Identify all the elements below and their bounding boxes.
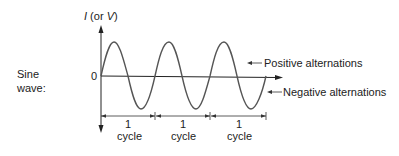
svg-text:1: 1 xyxy=(180,118,186,130)
pointer-arrow-icon xyxy=(247,61,252,65)
svg-text:1: 1 xyxy=(236,118,242,130)
sine-label: Sine xyxy=(17,68,39,80)
y-axis xyxy=(99,25,104,133)
svg-text:cycle: cycle xyxy=(117,130,142,142)
arrow-up-icon xyxy=(99,25,104,33)
cycle-dimension-3: 1 cycle xyxy=(211,112,266,142)
svg-text:1: 1 xyxy=(125,118,131,130)
sine-wave-diagram: Sine wave: I (or V) 0 Positive alternati… xyxy=(0,0,399,156)
cycle-dimension-1: 1 cycle xyxy=(101,112,155,142)
pointer-arrow-icon xyxy=(267,90,272,94)
zero-label: 0 xyxy=(91,70,97,82)
cycle-dimension-2: 1 cycle xyxy=(156,112,210,142)
svg-text:Negative alternations: Negative alternations xyxy=(283,86,387,98)
positive-alternations-callout: Positive alternations xyxy=(247,57,363,69)
svg-text:cycle: cycle xyxy=(227,130,252,142)
wave-label: wave: xyxy=(16,82,46,94)
negative-alternations-callout: Negative alternations xyxy=(267,86,387,98)
svg-text:Positive alternations: Positive alternations xyxy=(264,57,363,69)
arrow-down-icon xyxy=(99,125,104,133)
sine-wave-curve xyxy=(101,42,266,109)
svg-text:cycle: cycle xyxy=(171,130,196,142)
arrow-right-icon xyxy=(275,75,283,80)
y-axis-label: I (or V) xyxy=(84,10,118,22)
